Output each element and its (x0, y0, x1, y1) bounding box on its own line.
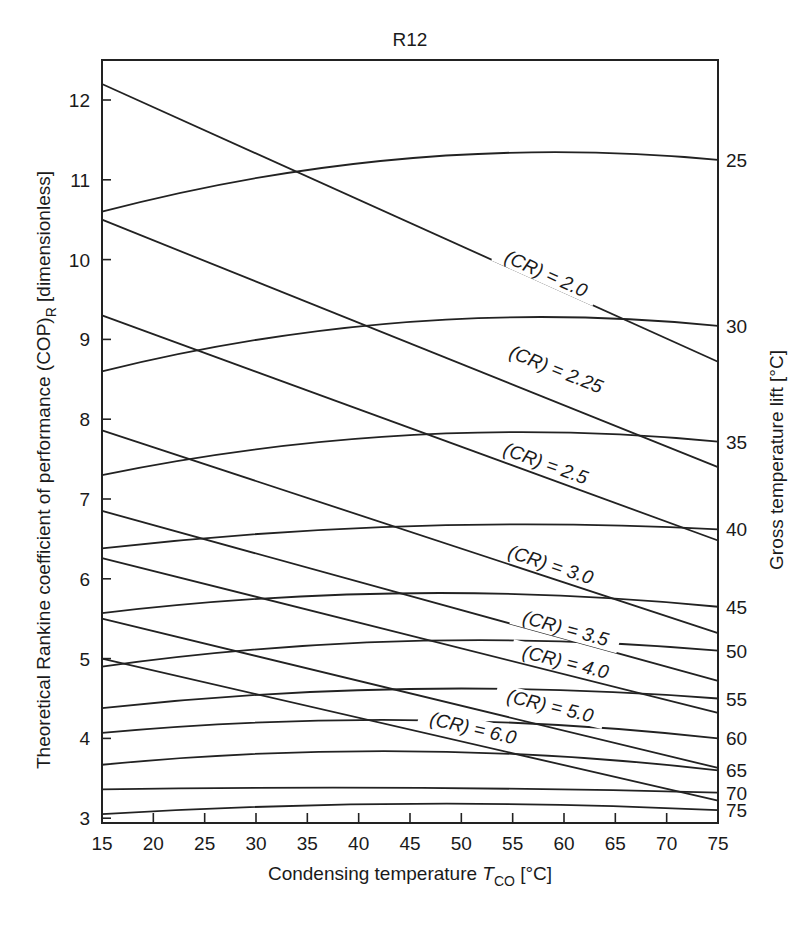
lift-label: 25 (726, 150, 747, 171)
right-axis-lift-labels: 2530354045505560657075 (726, 150, 747, 821)
cr-line-3 (102, 430, 718, 633)
lift-curve-50 (102, 640, 718, 666)
svg-text:(CR) = 2.5: (CR) = 2.5 (501, 438, 591, 488)
plot-frame (102, 60, 718, 823)
lift-label: 65 (726, 760, 747, 781)
y-tick-label: 10 (69, 250, 90, 271)
cr-line-2 (102, 315, 718, 540)
cr-line-1 (102, 220, 718, 467)
svg-text:(CR) = 2.0: (CR) = 2.0 (502, 246, 591, 302)
lift-label: 60 (726, 728, 747, 749)
lift-curve-70 (102, 788, 718, 793)
x-tick-label: 30 (245, 833, 266, 854)
x-tick-label: 55 (502, 833, 523, 854)
lift-label: 30 (726, 316, 747, 337)
lift-curve-35 (102, 432, 718, 475)
lift-label: 50 (726, 641, 747, 662)
lift-label: 45 (726, 597, 747, 618)
cr-label: (CR) = 2.25 (496, 337, 617, 402)
cr-label: (CR) = 2.0 (491, 241, 601, 306)
lift-curve-25 (102, 152, 718, 212)
x-tick-label: 65 (605, 833, 626, 854)
x-tick-label: 75 (707, 833, 728, 854)
chart: R12 15202530354045505560657075 345678910… (0, 0, 810, 928)
lift-label: 55 (726, 689, 747, 710)
x-tick-label: 50 (451, 833, 472, 854)
svg-text:(CR) = 2.25: (CR) = 2.25 (506, 341, 606, 397)
right-axis-title: Gross temperature lift [°C] (766, 350, 787, 570)
lift-label: 35 (726, 432, 747, 453)
y-tick-label: 4 (79, 728, 90, 749)
x-tick-label: 20 (143, 833, 164, 854)
svg-text:(CR) = 3.0: (CR) = 3.0 (505, 541, 596, 589)
x-tick-label: 25 (194, 833, 215, 854)
x-axis: 15202530354045505560657075 (91, 813, 728, 854)
x-axis-title: Condensing temperature TCO [°C] (268, 863, 552, 889)
y-tick-label: 12 (69, 90, 90, 111)
x-tick-label: 35 (297, 833, 318, 854)
x-tick-label: 60 (553, 833, 574, 854)
x-tick-label: 40 (348, 833, 369, 854)
y-tick-label: 5 (79, 649, 90, 670)
plot-curves (102, 84, 718, 814)
lift-curve-55 (102, 689, 718, 709)
lift-label: 75 (726, 800, 747, 821)
x-tick-label: 15 (91, 833, 112, 854)
y-tick-label: 3 (79, 808, 90, 829)
svg-text:(CR) = 6.0: (CR) = 6.0 (428, 708, 519, 748)
y-tick-label: 6 (79, 569, 90, 590)
lift-curve-75 (102, 804, 718, 814)
y-tick-label: 7 (79, 489, 90, 510)
y-axis: 3456789101112 (69, 90, 111, 829)
x-tick-label: 70 (656, 833, 677, 854)
y-axis-title: Theoretical Rankine coefficient of perfo… (33, 171, 59, 769)
cr-line-0 (102, 84, 718, 362)
y-tick-label: 11 (70, 170, 90, 191)
chart-title: R12 (393, 29, 428, 50)
lift-label: 40 (726, 519, 747, 540)
y-tick-label: 9 (79, 329, 90, 350)
lift-curve-65 (102, 751, 718, 770)
y-tick-label: 8 (79, 409, 90, 430)
x-tick-label: 45 (399, 833, 420, 854)
